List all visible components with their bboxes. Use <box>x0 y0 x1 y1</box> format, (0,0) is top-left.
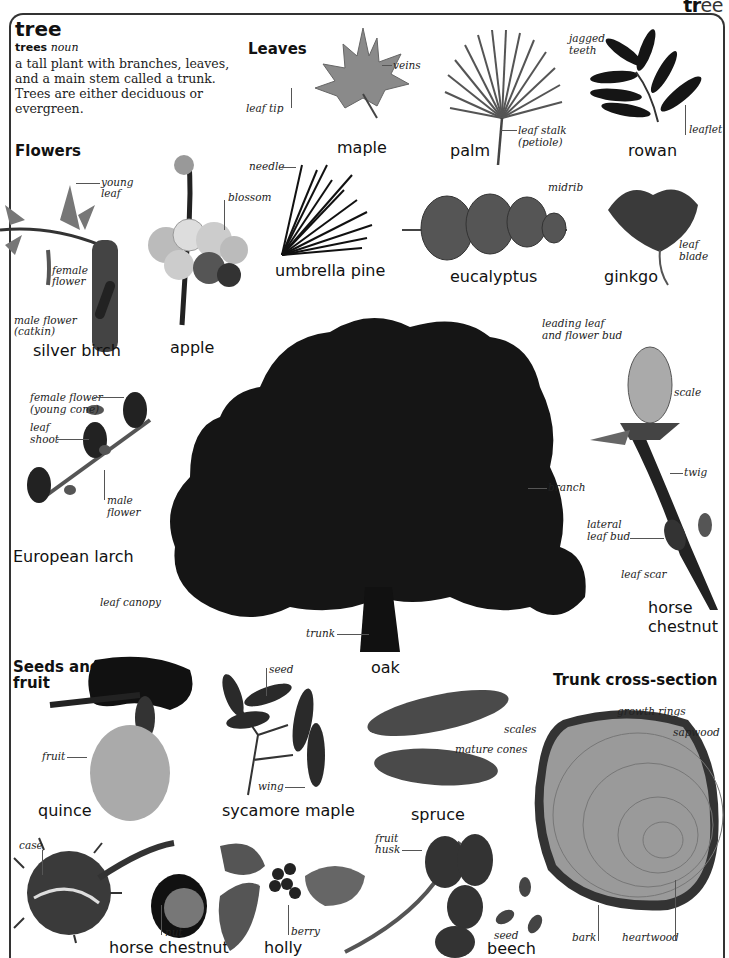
label-leaf-stalk: leaf stalk(petiole) <box>518 124 567 148</box>
label-fruit-husk: fruithusk <box>375 833 400 855</box>
label-leaflet: leaflet <box>689 124 722 135</box>
label-midrib: midrib <box>548 182 583 193</box>
leader-line <box>402 850 422 851</box>
leader-line <box>57 439 89 440</box>
label-leaf-scar: leaf scar <box>621 569 667 580</box>
plural-form: trees noun <box>15 41 255 54</box>
name-palm: palm <box>450 142 490 160</box>
label-veins: veins <box>393 60 421 71</box>
definition: a tall plant with branches, leaves, and … <box>15 56 255 116</box>
section-title-leaves: Leaves <box>248 41 307 58</box>
label-wing: wing <box>258 781 284 792</box>
label-jagged-teeth: jaggedteeth <box>569 32 605 56</box>
leader-line <box>291 88 292 108</box>
name-holly: holly <box>264 939 302 957</box>
leader-line <box>76 183 100 184</box>
label-bark: bark <box>572 932 596 943</box>
label-heartwood: heartwood <box>622 932 679 943</box>
label-leaf-canopy: leaf canopy <box>100 597 161 608</box>
label-leaf-tip: leaf tip <box>246 103 283 114</box>
name-horse-chestnut-bud: horsechestnut <box>648 598 718 636</box>
leader-line <box>285 787 305 788</box>
label-needle: needle <box>249 161 284 172</box>
name-silver-birch: silver birch <box>33 342 121 360</box>
label-case: case <box>19 840 43 851</box>
label-berry: berry <box>291 926 320 937</box>
apple-blossom-illustration <box>144 150 254 330</box>
eucalyptus-illustration <box>402 188 572 268</box>
leader-line <box>161 905 162 935</box>
label-female-flower: femaleflower <box>52 265 88 287</box>
rowan-leaf-illustration <box>596 32 706 122</box>
name-spruce: spruce <box>411 806 465 824</box>
name-maple: maple <box>337 139 387 157</box>
leader-line <box>266 668 267 696</box>
label-leading-bud: leading leafand flower bud <box>542 317 622 341</box>
name-sycamore-maple: sycamore maple <box>222 802 355 820</box>
label-branch: branch <box>548 482 585 493</box>
label-sapwood: sapwood <box>673 727 720 738</box>
leader-line <box>382 65 392 66</box>
label-scale: scale <box>674 387 701 398</box>
leader-line <box>501 130 517 131</box>
oak-tree-illustration <box>160 307 590 657</box>
name-european-larch: European larch <box>13 548 134 566</box>
label-young-leaf: youngleaf <box>101 177 134 199</box>
label-growth-rings: growth rings <box>617 706 686 717</box>
name-beech: beech <box>487 940 536 958</box>
leader-line <box>630 538 664 539</box>
label-mature-cones: mature cones <box>455 744 527 755</box>
section-title-trunk-cross-section: Trunk cross-section <box>553 672 718 689</box>
maple-leaf-illustration <box>305 26 415 121</box>
name-rowan: rowan <box>628 142 677 160</box>
quince-illustration <box>50 655 195 820</box>
umbrella-pine-illustration <box>272 160 382 260</box>
label-male-flower-catkin: male flower(catkin) <box>14 315 77 337</box>
leader-line <box>685 105 686 135</box>
label-leaf-blade: leafblade <box>679 238 708 262</box>
horse-chestnut-conker-illustration <box>14 838 214 943</box>
leader-line <box>282 167 296 168</box>
label-lateral-leaf-bud: lateralleaf bud <box>587 518 630 542</box>
name-horse-chestnut-fruit: horse chestnut <box>109 939 229 957</box>
leader-line <box>67 757 87 758</box>
dictionary-entry: tree trees noun a tall plant with branch… <box>15 18 255 116</box>
leader-line <box>675 880 676 941</box>
label-fruit: fruit <box>42 751 65 762</box>
leader-line <box>670 473 683 474</box>
leader-line <box>104 470 105 500</box>
name-umbrella-pine: umbrella pine <box>275 262 385 280</box>
label-larch-male-flower: maleflower <box>107 494 141 518</box>
label-leaf-shoot: leafshoot <box>30 421 59 445</box>
leader-line <box>598 905 599 941</box>
corner-heading: tree <box>683 0 723 16</box>
section-title-flowers: Flowers <box>15 143 81 160</box>
name-ginkgo: ginkgo <box>604 268 658 286</box>
leader-line <box>337 634 369 635</box>
name-quince: quince <box>38 802 92 820</box>
headword: tree <box>15 18 255 40</box>
leader-line <box>224 200 225 230</box>
label-larch-female-flower: female flower(young cone) <box>30 391 103 415</box>
label-trunk: trunk <box>306 628 335 639</box>
name-oak: oak <box>371 659 400 677</box>
label-blossom: blossom <box>228 192 271 203</box>
leader-line <box>288 905 289 935</box>
label-twig: twig <box>684 467 707 478</box>
leader-line <box>42 850 43 875</box>
label-seed: seed <box>269 664 294 675</box>
name-eucalyptus: eucalyptus <box>450 268 537 286</box>
label-nut: nut <box>165 927 183 938</box>
leader-line <box>94 397 124 398</box>
leader-line <box>528 488 547 489</box>
